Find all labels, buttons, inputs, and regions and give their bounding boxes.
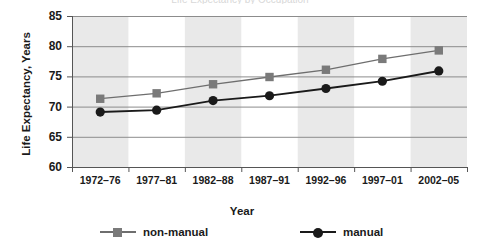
x-tick-label: 1977–81 xyxy=(128,174,184,186)
y-axis-title: Life Expectancy, Years xyxy=(20,14,32,174)
x-tick-label: 2002–05 xyxy=(411,174,467,186)
data-point-marker xyxy=(265,73,273,81)
y-tick-label: 65 xyxy=(36,131,62,143)
y-tick-label: 70 xyxy=(36,101,62,113)
data-point-marker xyxy=(434,66,443,75)
data-point-marker xyxy=(378,55,386,63)
legend-label: manual xyxy=(343,226,383,238)
data-point-marker xyxy=(96,95,104,103)
data-point-marker xyxy=(435,46,443,54)
legend-swatch-non-manual xyxy=(100,225,136,239)
legend-item-non-manual[interactable]: non-manual xyxy=(100,222,208,242)
x-tick-label: 1997–01 xyxy=(354,174,410,186)
data-point-marker xyxy=(96,107,105,116)
y-tick-label: 85 xyxy=(36,10,62,22)
y-tick-label: 75 xyxy=(36,70,62,82)
legend-square-marker-icon xyxy=(113,228,122,237)
legend-item-manual[interactable]: manual xyxy=(300,222,383,242)
legend-label: non-manual xyxy=(143,226,208,238)
plot-band xyxy=(72,16,128,167)
plot-band xyxy=(185,16,241,167)
data-point-marker xyxy=(321,84,330,93)
life-expectancy-line-chart: Life Expectancy by Occupation Life Expec… xyxy=(0,0,484,248)
data-point-marker xyxy=(208,96,217,105)
legend-swatch-manual xyxy=(300,225,336,239)
x-tick-label: 1987–91 xyxy=(241,174,297,186)
x-axis-title: Year xyxy=(0,205,484,217)
legend-circle-marker-icon xyxy=(313,228,323,238)
y-tick-label: 80 xyxy=(36,40,62,52)
data-point-marker xyxy=(209,80,217,88)
data-point-marker xyxy=(152,106,161,115)
x-tick-label: 1972–76 xyxy=(72,174,128,186)
data-point-marker xyxy=(322,66,330,74)
data-point-marker xyxy=(265,91,274,100)
y-tick-label: 60 xyxy=(36,161,62,173)
x-tick-label: 1982–88 xyxy=(185,174,241,186)
x-tick-label: 1992–96 xyxy=(298,174,354,186)
data-point-marker xyxy=(152,89,160,97)
data-point-marker xyxy=(378,77,387,86)
plot-band xyxy=(411,16,467,167)
chart-legend: non-manualmanual xyxy=(0,222,484,244)
